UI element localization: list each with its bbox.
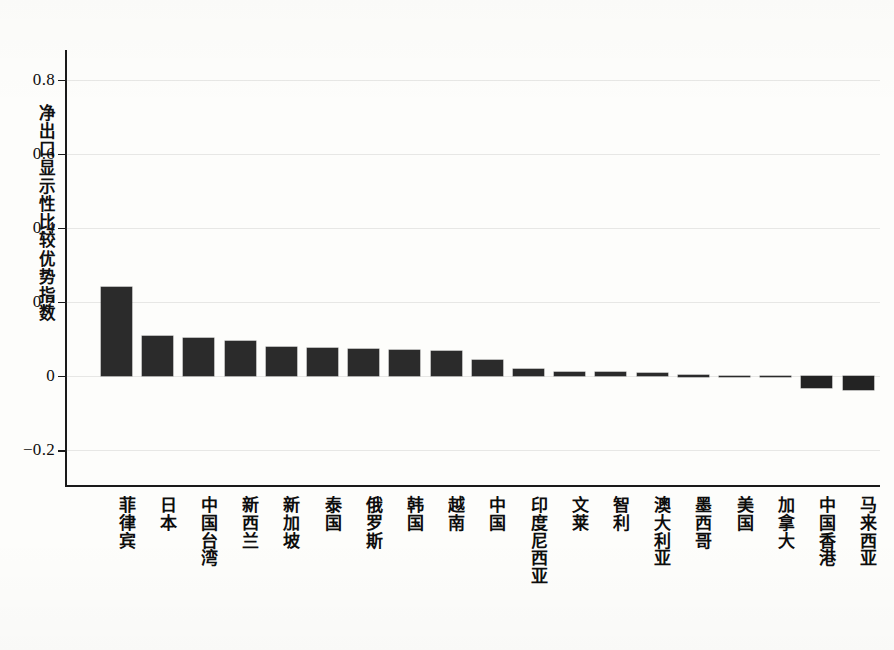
plot-area: 0.80.60.40.20−0.2 bbox=[65, 50, 880, 487]
x-axis-category-label: 中国香港 bbox=[800, 496, 834, 567]
x-axis-category-label: 澳大利亚 bbox=[636, 496, 670, 567]
gridline bbox=[66, 80, 880, 81]
x-axis-category-label: 日本 bbox=[141, 496, 175, 532]
bar bbox=[183, 338, 214, 375]
bar bbox=[513, 369, 544, 376]
x-axis-category-label: 美国 bbox=[718, 496, 752, 532]
x-axis-category-label: 菲律宾 bbox=[100, 496, 134, 549]
y-tick-label: 0.4 bbox=[33, 217, 55, 237]
y-tick-label: 0.6 bbox=[33, 143, 55, 163]
bar bbox=[472, 360, 503, 376]
y-axis-label: 净出口显示性比较优势指数 bbox=[28, 104, 54, 322]
gridline bbox=[66, 302, 880, 303]
bar bbox=[595, 372, 626, 376]
bar bbox=[307, 348, 338, 376]
x-axis-labels: 菲律宾日本中国台湾新西兰新加坡泰国俄罗斯韩国越南中国印度尼西亚文莱智利澳大利亚墨… bbox=[65, 496, 880, 646]
bar bbox=[678, 375, 709, 376]
x-axis-category-label: 俄罗斯 bbox=[347, 496, 381, 549]
y-tick-mark bbox=[58, 80, 65, 82]
bar bbox=[431, 351, 462, 375]
gridline bbox=[66, 376, 880, 377]
gridline bbox=[66, 450, 880, 451]
x-axis-category-label: 墨西哥 bbox=[677, 496, 711, 549]
y-axis-line bbox=[65, 50, 67, 487]
x-axis-category-label: 越南 bbox=[430, 496, 464, 532]
y-tick-mark bbox=[58, 154, 65, 156]
x-axis-category-label: 韩国 bbox=[388, 496, 422, 532]
x-axis-category-label: 中国台湾 bbox=[182, 496, 216, 567]
x-axis-category-label: 文莱 bbox=[553, 496, 587, 532]
bar bbox=[225, 341, 256, 376]
gridline bbox=[66, 228, 880, 229]
chart-page: 净出口显示性比较优势指数 0.80.60.40.20−0.2 菲律宾日本中国台湾… bbox=[0, 0, 894, 650]
bar bbox=[348, 349, 379, 376]
bar bbox=[554, 372, 585, 376]
x-axis-category-label: 中国 bbox=[471, 496, 505, 532]
x-axis-category-label: 印度尼西亚 bbox=[512, 496, 546, 585]
x-axis-category-label: 智利 bbox=[594, 496, 628, 532]
x-axis-category-label: 新加坡 bbox=[265, 496, 299, 549]
bar bbox=[760, 376, 791, 377]
bar bbox=[389, 350, 420, 376]
y-tick-label: 0.8 bbox=[33, 69, 55, 89]
bar bbox=[142, 336, 173, 376]
y-tick-mark bbox=[58, 228, 65, 230]
bar bbox=[801, 376, 832, 389]
x-axis-line bbox=[65, 485, 880, 487]
bar bbox=[719, 376, 750, 377]
bar bbox=[101, 287, 132, 376]
bar bbox=[637, 373, 668, 376]
y-tick-mark bbox=[58, 302, 65, 304]
x-axis-category-label: 泰国 bbox=[306, 496, 340, 532]
x-axis-category-label: 新西兰 bbox=[224, 496, 258, 549]
gridline bbox=[66, 154, 880, 155]
y-tick-label: 0 bbox=[46, 365, 55, 385]
y-tick-label: −0.2 bbox=[23, 440, 55, 460]
y-tick-mark bbox=[58, 450, 65, 452]
y-tick-label: 0.2 bbox=[33, 291, 55, 311]
x-axis-category-label: 马来西亚 bbox=[842, 496, 876, 567]
y-tick-mark bbox=[58, 376, 65, 378]
bar bbox=[843, 376, 874, 390]
bar bbox=[266, 347, 297, 376]
x-axis-category-label: 加拿大 bbox=[759, 496, 793, 549]
